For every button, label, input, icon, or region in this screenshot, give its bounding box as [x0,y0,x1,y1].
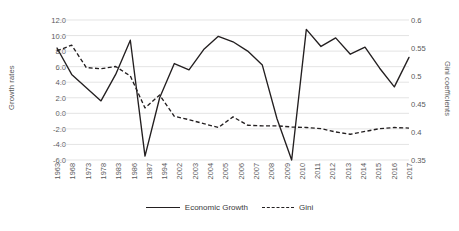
y-axis-left-title: Growth rates [4,48,18,128]
x-tick-2002: 2002 [175,163,184,179]
x-tick-2013: 2013 [344,163,353,179]
x-tick-2009: 2009 [283,163,292,179]
series-line-economic-growth [57,29,409,160]
x-tick-1963: 1963 [53,163,62,179]
x-tick-1983: 1983 [114,163,123,179]
x-tick-1968: 1968 [68,163,77,179]
x-tick-2010: 2010 [298,163,307,179]
y-tick-right-0_5: 0.5 [411,72,422,81]
x-tick-2011: 2011 [313,163,322,179]
x-tick-2004: 2004 [206,163,215,179]
x-tick-2015: 2015 [374,163,383,179]
gridlines [57,20,409,160]
x-tick-2006: 2006 [237,163,246,179]
y-tick-right-0_55: 0.55 [411,44,426,53]
plot-area [57,20,409,160]
plot-svg [57,20,409,160]
x-axis-ticks: 1963196819731978198319861987199420022003… [57,163,409,197]
x-tick-2007: 2007 [252,163,261,179]
legend-item-gini[interactable]: Gini [262,203,313,212]
legend-label: Gini [299,203,313,212]
x-tick-1994: 1994 [160,163,169,179]
y-axis-right-title: Gini coefficients [440,44,454,134]
x-tick-2005: 2005 [221,163,230,179]
x-tick-1978: 1978 [99,163,108,179]
x-tick-2016: 2016 [390,163,399,179]
y-tick-right-0_4: 0.4 [411,128,422,137]
x-tick-1973: 1973 [84,163,93,179]
series-line-gini [57,45,409,134]
legend-label: Economic Growth [185,203,248,212]
y-tick-right-0_45: 0.45 [411,100,426,109]
y-tick-right-0_6: 0.6 [411,16,422,25]
x-tick-2012: 2012 [328,163,337,179]
x-tick-2017: 2017 [405,163,414,179]
legend-swatch-dashed [262,207,294,208]
chart-legend: Economic GrowthGini [0,203,459,212]
x-tick-1986: 1986 [130,163,139,179]
economic-growth-gini-chart: Growth rates Gini coefficients 12.010.08… [0,0,459,231]
x-tick-1987: 1987 [145,163,154,179]
x-tick-2014: 2014 [359,163,368,179]
x-tick-2008: 2008 [267,163,276,179]
x-tick-2003: 2003 [191,163,200,179]
legend-item-economic-growth[interactable]: Economic Growth [146,203,248,212]
legend-swatch-solid [146,207,180,208]
